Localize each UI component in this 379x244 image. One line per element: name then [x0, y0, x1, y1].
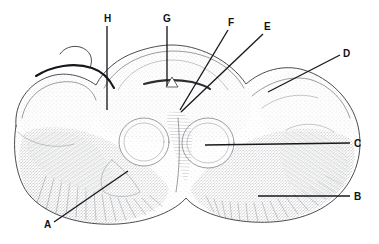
label-f: F [228, 17, 234, 28]
label-g: G [163, 13, 171, 24]
label-c: C [354, 138, 361, 149]
histology-figure: H G F E D C B A [0, 0, 379, 244]
label-a: A [44, 219, 51, 230]
cross-section-drawing: H G F E D C B A [0, 0, 379, 244]
label-d: D [343, 48, 350, 59]
label-h: H [104, 13, 111, 24]
tissue-body [0, 0, 379, 244]
label-b: B [354, 191, 361, 202]
label-e: E [264, 21, 271, 32]
